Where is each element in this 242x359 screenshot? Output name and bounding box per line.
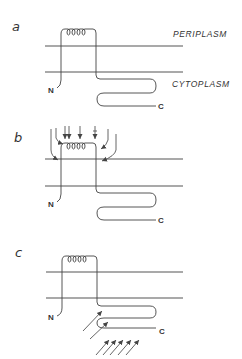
panel-label-b: b (14, 130, 22, 145)
n-terminus-label: N (48, 86, 54, 95)
n-terminus-label: N (48, 313, 54, 322)
n-terminus-label: N (48, 200, 54, 209)
arrow-icon (126, 340, 139, 355)
arrow-icon (56, 128, 63, 144)
panel-c: c N C (15, 245, 183, 355)
panel-b: b N C (14, 126, 183, 225)
membrane-topology-figure: a PERIPLASM CYTOPLASM N C b N C c (0, 0, 242, 359)
arrow-icon (118, 340, 131, 355)
polypeptide-chain (57, 29, 156, 106)
arrow-icon (51, 129, 58, 160)
arrow-icon (83, 311, 102, 331)
panel-label-a: a (12, 19, 20, 34)
periplasm-label: PERIPLASM (173, 29, 227, 39)
panel-a: a PERIPLASM CYTOPLASM N C (12, 19, 230, 111)
arrow-icon (96, 340, 109, 355)
c-terminus-label: C (159, 327, 165, 336)
polypeptide-chain (57, 143, 156, 220)
arrow-icon (110, 340, 123, 355)
arrow-icon (90, 322, 108, 339)
polypeptide-chain (57, 256, 156, 328)
arrow-icon (102, 134, 116, 161)
c-terminus-label: C (158, 216, 164, 225)
arrow-icon (101, 129, 108, 149)
c-terminus-label: C (158, 102, 164, 111)
cytoplasm-label: CYTOPLASM (172, 79, 230, 89)
panel-label-c: c (15, 245, 22, 260)
arrow-icon (103, 340, 116, 355)
